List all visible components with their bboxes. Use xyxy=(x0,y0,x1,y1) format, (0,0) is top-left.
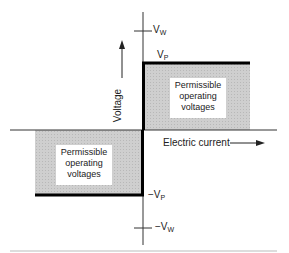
arrow-right-icon xyxy=(256,140,265,146)
neg-vw-sub: W xyxy=(168,226,175,233)
vw-sub: W xyxy=(160,29,167,36)
x-axis-label: Electric current xyxy=(163,137,230,148)
arrow-up-icon xyxy=(119,40,125,49)
vw-main: V xyxy=(153,24,160,35)
vp-label: VP xyxy=(157,49,168,61)
vp-sub: P xyxy=(164,54,169,61)
neg-vp-label: −VP xyxy=(148,189,165,201)
vw-label: VW xyxy=(153,24,166,36)
vp-main: V xyxy=(157,49,164,60)
neg-vp-main: V xyxy=(154,189,161,200)
neg-vw-main: V xyxy=(161,221,168,232)
diagram-lines xyxy=(0,0,289,253)
y-axis-label: Voltage xyxy=(112,89,123,122)
neg-vw-label: −VW xyxy=(155,221,174,233)
neg-vp-sub: P xyxy=(161,194,166,201)
